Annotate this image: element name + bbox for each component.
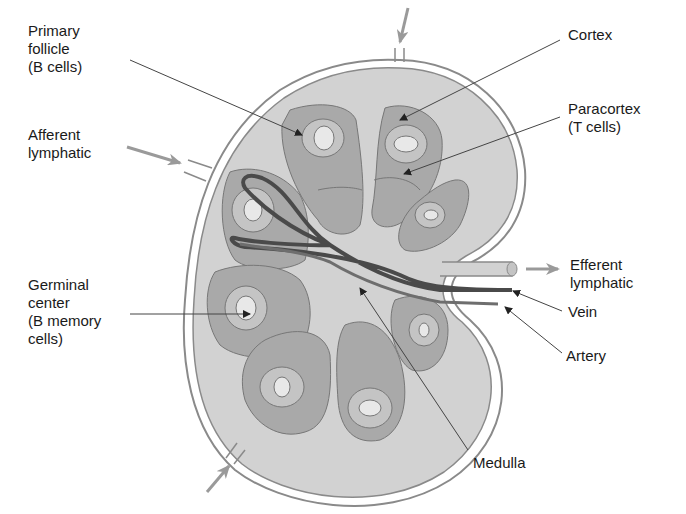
label-artery: Artery bbox=[566, 347, 606, 365]
afferent-vessel-left bbox=[127, 147, 212, 181]
afferent-vessel-top bbox=[395, 8, 408, 62]
label-germinal-center: Germinal center (B memory cells) bbox=[28, 276, 101, 348]
label-vein: Vein bbox=[568, 303, 597, 321]
label-paracortex: Paracortex (T cells) bbox=[568, 100, 641, 136]
lymph-node-diagram: Primary follicle (B cells) Afferent lymp… bbox=[0, 0, 686, 514]
leader-vein bbox=[513, 291, 562, 311]
efferent-vessel bbox=[440, 262, 558, 276]
label-cortex: Cortex bbox=[568, 26, 612, 44]
label-efferent-lymphatic: Efferent lymphatic bbox=[570, 256, 633, 292]
label-afferent-lymphatic: Afferent lymphatic bbox=[28, 126, 91, 162]
label-primary-follicle: Primary follicle (B cells) bbox=[28, 22, 82, 76]
label-medulla: Medulla bbox=[473, 454, 526, 472]
leader-artery bbox=[505, 307, 562, 353]
